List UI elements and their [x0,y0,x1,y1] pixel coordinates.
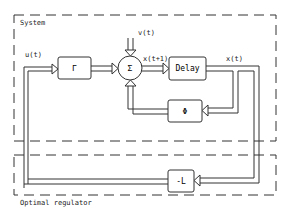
delay-label: Delay [175,64,199,73]
block-diagram: Γ Σ Delay Φ -L System Optimal regulator … [0,0,287,219]
v-signal-line [128,38,133,50]
x-signal-line [200,66,259,183]
phi-to-sum-line [128,86,168,114]
arrow-icon [125,80,136,86]
arrow-icon [112,63,118,74]
sum-label: Σ [128,64,133,73]
u-signal-line [24,67,52,188]
v-signal-label: v(t) [138,30,155,37]
sum-to-delay-line [142,66,163,71]
u-signal-label: u(t) [25,52,42,59]
phi-label: Φ [183,107,188,116]
gamma-label: Γ [72,64,77,73]
arrow-icon [194,175,200,186]
regulator-label: Optimal regulator [20,200,92,207]
gain-label: -L [176,177,186,186]
arrow-icon [202,105,208,116]
arrow-icon [52,64,58,74]
arrow-icon [125,50,136,56]
system-label: System [20,20,45,27]
regulator-region-border [14,155,276,195]
arrow-icon [163,63,169,74]
gamma-to-sum-line [91,66,112,71]
x-signal-label: x(t) [226,56,243,63]
x-next-signal-label: x(t+1) [143,56,168,63]
gain-to-u-line [24,179,168,184]
